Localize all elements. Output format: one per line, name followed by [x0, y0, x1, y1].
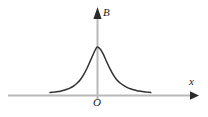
arrow-right-icon [190, 91, 199, 99]
origin-label: O [93, 97, 101, 108]
arrow-up-icon [93, 7, 101, 19]
y-axis-label: B [103, 7, 110, 18]
bell-curve-path [50, 47, 151, 93]
x-axis-label: x [189, 76, 194, 87]
physics-figure-b-vs-x: B O x [0, 0, 208, 117]
